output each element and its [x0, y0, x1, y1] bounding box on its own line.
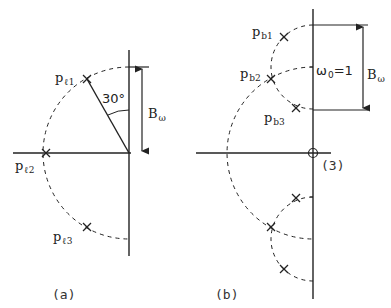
panel-b-graphics	[196, 9, 368, 299]
pole-b1-label: pb1	[252, 25, 273, 38]
pole-b6-marker	[280, 265, 288, 273]
pole-b3-label: pb3	[264, 111, 285, 124]
pole-l2-label: pℓ2	[15, 159, 34, 172]
upper-small-arc-b	[271, 25, 313, 109]
pole-l1-label: pℓ1	[55, 71, 74, 84]
caption-b: (b)	[215, 287, 238, 302]
diagram-graphics	[0, 0, 391, 308]
bandwidth-label-a: Bω	[148, 107, 166, 120]
panel-a-graphics	[13, 50, 149, 256]
pole-b2-label: pb2	[240, 67, 261, 80]
pole-b2-marker	[267, 75, 275, 83]
pole-placement-diagram: pℓ1 pℓ2 pℓ3 30° Bω (a) pb1 pb2 pb3 ω0=1 …	[0, 0, 391, 308]
center-frequency-label: ω0=1	[316, 64, 353, 77]
origin-multiplicity-label: (3)	[321, 158, 344, 173]
bandwidth-label-b: Bω	[367, 68, 385, 81]
angle-label: 30°	[102, 92, 125, 105]
pole-l3-marker	[83, 223, 91, 231]
pole-l3-label: pℓ3	[53, 230, 72, 243]
angle-arc	[108, 110, 129, 115]
pole-l1-marker	[83, 75, 91, 83]
lower-small-arc-b	[271, 197, 313, 281]
pole-b1-marker	[280, 33, 288, 41]
caption-a: (a)	[52, 287, 75, 302]
pole-b5-marker	[267, 223, 275, 231]
